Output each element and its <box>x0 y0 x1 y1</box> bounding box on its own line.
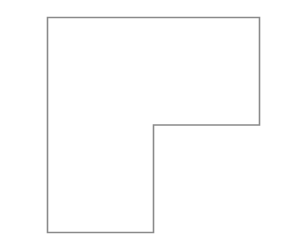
l-shape-outline <box>48 18 260 233</box>
diagram-canvas <box>0 0 281 249</box>
